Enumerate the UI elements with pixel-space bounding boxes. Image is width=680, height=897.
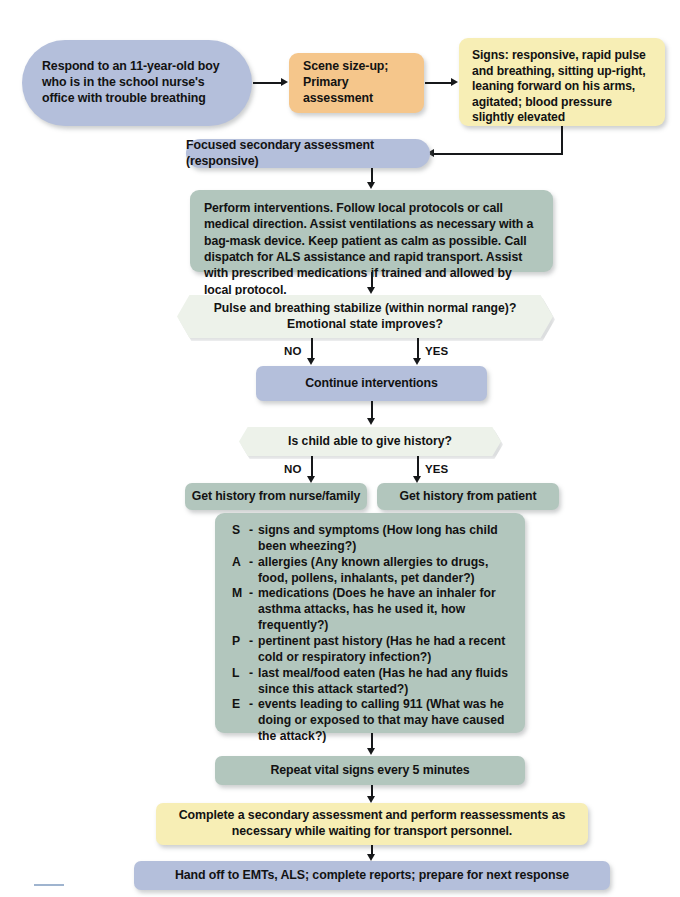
arrowhead-scene-to-signs bbox=[451, 78, 458, 86]
connector-dispatch-to-scene bbox=[253, 82, 282, 84]
sample-text: medications (Does he have an inhaler for… bbox=[258, 586, 514, 634]
node-complete-secondary-assessment: Complete a secondary assessment and perf… bbox=[156, 803, 588, 845]
decision-stabilize-text: Pulse and breathing stabilize (within no… bbox=[214, 301, 517, 333]
decision-history-label: Is child able to give history? bbox=[288, 434, 452, 450]
node-continue-interventions: Continue interventions bbox=[256, 366, 487, 401]
node-focused-secondary-assessment: Focused secondary assessment (responsive… bbox=[186, 139, 430, 168]
list-item: E - events leading to calling 911 (What … bbox=[232, 697, 514, 745]
arrowhead-continue-to-decision2 bbox=[367, 418, 375, 425]
branch-label-stabilize-yes: YES bbox=[425, 345, 448, 357]
arrowhead-complete-to-handoff bbox=[367, 854, 375, 861]
node-focused-secondary-label: Focused secondary assessment (responsive… bbox=[186, 138, 430, 170]
sample-key: P bbox=[232, 634, 249, 650]
flowchart-canvas: Respond to an 11-year-old boy who is in … bbox=[0, 0, 680, 897]
sample-key: E bbox=[232, 697, 249, 713]
sample-dash: - bbox=[249, 523, 258, 539]
arrowhead-interventions-to-decision1 bbox=[367, 287, 375, 294]
arrowhead-repeat-to-complete bbox=[367, 796, 375, 803]
node-hand-off: Hand off to EMTs, ALS; complete reports;… bbox=[134, 861, 610, 890]
node-scene-size-up-line2: Primary assessment bbox=[303, 75, 373, 105]
sample-text: events leading to calling 911 (What was … bbox=[258, 697, 514, 745]
node-dispatch-information: Respond to an 11-year-old boy who is in … bbox=[22, 40, 252, 126]
arrowhead-history-no bbox=[307, 476, 315, 483]
sample-dash: - bbox=[249, 634, 258, 650]
list-item: A - allergies (Any known allergies to dr… bbox=[232, 555, 514, 587]
decision-pulse-breathing-stabilize: Pulse and breathing stabilize (within no… bbox=[177, 295, 553, 338]
connector-signs-down bbox=[561, 126, 563, 155]
node-scene-size-up: Scene size-up; Primary assessment bbox=[289, 53, 424, 113]
arrowhead-dispatch-to-scene bbox=[281, 78, 288, 86]
sample-dash: - bbox=[249, 697, 258, 713]
list-item: L - last meal/food eaten (Has he had any… bbox=[232, 666, 514, 698]
node-get-history-from-patient: Get history from patient bbox=[377, 483, 559, 510]
sample-key: S bbox=[232, 523, 249, 539]
node-repeat-vital-signs: Repeat vital signs every 5 minutes bbox=[215, 756, 525, 785]
arrowhead-history-yes bbox=[413, 476, 421, 483]
sample-text: pertinent past history (Has he had a rec… bbox=[258, 634, 514, 666]
arrowhead-stabilize-yes bbox=[413, 358, 421, 365]
decision-stabilize-line2: Emotional state improves? bbox=[287, 317, 443, 331]
node-scene-size-up-line1: Scene size-up; bbox=[303, 59, 388, 73]
node-dispatch-label: Respond to an 11-year-old boy who is in … bbox=[42, 59, 234, 107]
sample-text: signs and symptoms (How long has child b… bbox=[258, 523, 514, 555]
decision-is-child-able-to-give-history: Is child able to give history? bbox=[239, 427, 501, 456]
page-corner-mark bbox=[34, 884, 64, 886]
arrowhead-focused-to-interventions bbox=[367, 182, 375, 189]
list-item: S - signs and symptoms (How long has chi… bbox=[232, 523, 514, 555]
sample-history-list: S - signs and symptoms (How long has chi… bbox=[232, 523, 514, 745]
list-item: P - pertinent past history (Has he had a… bbox=[232, 634, 514, 666]
node-repeat-vitals-label: Repeat vital signs every 5 minutes bbox=[270, 763, 469, 779]
arrowhead-stabilize-no bbox=[307, 358, 315, 365]
sample-dash: - bbox=[249, 555, 258, 571]
list-item: M - medications (Does he have an inhaler… bbox=[232, 586, 514, 634]
node-signs: Signs: responsive, rapid pulse and breat… bbox=[459, 38, 665, 126]
arrowhead-sample-to-repeat-vitals bbox=[367, 748, 375, 755]
sample-key: L bbox=[232, 666, 249, 682]
node-perform-interventions-label: Perform interventions. Follow local prot… bbox=[204, 201, 533, 297]
connector-signs-left bbox=[434, 153, 562, 155]
node-get-history-from-nurse-family: Get history from nurse/family bbox=[185, 483, 367, 510]
branch-label-history-yes: YES bbox=[425, 463, 448, 475]
sample-text: allergies (Any known allergies to drugs,… bbox=[258, 555, 514, 587]
node-signs-label: Signs: responsive, rapid pulse and breat… bbox=[472, 48, 646, 124]
sample-dash: - bbox=[249, 666, 258, 682]
sample-dash: - bbox=[249, 586, 258, 602]
sample-key: A bbox=[232, 555, 249, 571]
node-continue-interventions-label: Continue interventions bbox=[305, 376, 438, 392]
node-history-patient-label: Get history from patient bbox=[400, 489, 537, 505]
branch-label-history-no: NO bbox=[284, 463, 301, 475]
node-complete-secondary-label: Complete a secondary assessment and perf… bbox=[170, 808, 574, 840]
sample-text: last meal/food eaten (Has he had any flu… bbox=[258, 666, 514, 698]
sample-key: M bbox=[232, 586, 249, 602]
node-hand-off-label: Hand off to EMTs, ALS; complete reports;… bbox=[175, 868, 569, 884]
decision-stabilize-line1: Pulse and breathing stabilize (within no… bbox=[214, 301, 517, 315]
node-scene-size-up-text: Scene size-up; Primary assessment bbox=[303, 59, 414, 107]
connector-scene-to-signs bbox=[425, 82, 452, 84]
node-history-nurse-family-label: Get history from nurse/family bbox=[192, 489, 361, 505]
node-perform-interventions: Perform interventions. Follow local prot… bbox=[190, 190, 553, 272]
branch-label-stabilize-no: NO bbox=[284, 345, 301, 357]
